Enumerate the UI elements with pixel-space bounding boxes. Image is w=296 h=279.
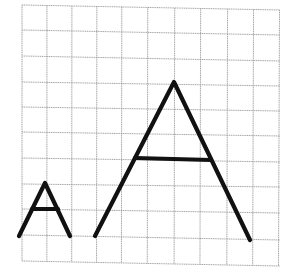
large-a-crossbar (135, 158, 211, 160)
square-grid (22, 5, 280, 266)
grid-column-line (253, 9, 254, 265)
grid-row-line (22, 261, 280, 266)
grid-row-line (22, 132, 280, 136)
grid-column-line (279, 10, 280, 266)
grid-row-line (22, 107, 280, 111)
grid-column-line (227, 9, 228, 265)
grid-column-line (174, 8, 175, 264)
grid-row-line (22, 235, 280, 240)
grid-row-line (22, 56, 280, 61)
grid-row-line (22, 5, 280, 10)
grid-row-line (22, 82, 280, 86)
grid-row-line (22, 184, 280, 187)
grid-figure (0, 0, 296, 279)
grid-row-line (22, 30, 280, 35)
